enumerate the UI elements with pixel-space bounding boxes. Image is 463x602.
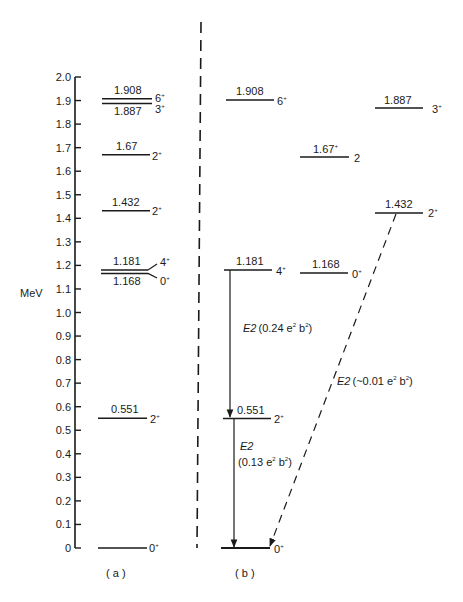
spin-label-a-1887: 3+ bbox=[155, 103, 165, 115]
panel-a: 1.908 1.887 6+ 3+ 1.67 2+ 1.432 2+ 1.181… bbox=[98, 84, 170, 579]
y-axis-unit-label: MeV bbox=[20, 287, 43, 299]
spin-label-a-167: 2+ bbox=[152, 150, 162, 162]
y-axis-tick-label: 0 bbox=[65, 542, 71, 554]
spin-label-b-1908: 6+ bbox=[277, 95, 287, 107]
panel-b-caption: ( b ) bbox=[235, 567, 255, 579]
y-axis-tick-label: 1.2 bbox=[56, 259, 71, 271]
transition-label-1181-to-0551: E2(0.24 e2 b2) bbox=[243, 322, 312, 334]
energy-label-a-1181: 1.181 bbox=[113, 255, 141, 267]
y-axis-tick-label: 0.4 bbox=[56, 448, 71, 460]
spin-label-b-1887: 3+ bbox=[432, 103, 442, 115]
spin-label-b-ground: 0+ bbox=[274, 543, 284, 555]
energy-label-a-167: 1.67 bbox=[116, 140, 137, 152]
y-axis-tick-label: 0.5 bbox=[56, 424, 71, 436]
spin-label-b-167: 2 bbox=[354, 152, 360, 164]
spin-label-a-1181: 4+ bbox=[160, 256, 170, 268]
spin-label-a-0551: 2+ bbox=[150, 413, 160, 425]
y-axis-tick-label: 0.9 bbox=[56, 330, 71, 342]
spin-label-b-1181: 4+ bbox=[276, 265, 286, 277]
y-axis-tick-label: 1.8 bbox=[56, 118, 71, 130]
energy-label-b-167: 1.67+ bbox=[313, 143, 338, 155]
panel-separator bbox=[197, 22, 201, 548]
spin-label-b-1168: 0+ bbox=[352, 268, 362, 280]
y-axis-tick-label: 1.0 bbox=[56, 307, 71, 319]
y-axis-tick-label: 0.3 bbox=[56, 471, 71, 483]
energy-label-b-1181: 1.181 bbox=[236, 255, 264, 267]
y-axis-ticks: 00.10.20.30.40.50.60.70.80.91.01.11.21.3… bbox=[56, 71, 81, 554]
y-axis-tick-label: 2.0 bbox=[56, 71, 71, 83]
energy-label-b-1887: 1.887 bbox=[384, 94, 412, 106]
spin-label-b-1432: 2+ bbox=[428, 207, 438, 219]
y-axis-tick-label: 0.1 bbox=[56, 518, 71, 530]
connector-a-1181 bbox=[148, 264, 157, 270]
y-axis-tick-label: 1.6 bbox=[56, 165, 71, 177]
y-axis-tick-label: 1.1 bbox=[56, 283, 71, 295]
panel-a-caption: ( a ) bbox=[106, 567, 126, 579]
energy-label-b-0551: 0.551 bbox=[237, 404, 265, 416]
panel-b: 1.908 6+ 1.887 3+ 1.67+ 2 1.432 2+ 1.181… bbox=[221, 85, 442, 579]
connector-a-1168 bbox=[148, 273, 157, 278]
y-axis-tick-label: 0.8 bbox=[56, 354, 71, 366]
y-axis-tick-label: 0.7 bbox=[56, 377, 71, 389]
y-axis-tick-label: 1.5 bbox=[56, 189, 71, 201]
energy-label-a-1908: 1.908 bbox=[114, 84, 142, 96]
energy-label-b-1908: 1.908 bbox=[236, 85, 264, 97]
y-axis-tick-label: 0.2 bbox=[56, 495, 71, 507]
spin-label-b-0551: 2+ bbox=[274, 413, 284, 425]
y-axis-tick-label: 1.9 bbox=[56, 95, 71, 107]
spin-label-a-1168: 0+ bbox=[160, 275, 170, 287]
y-axis-tick-label: 0.6 bbox=[56, 401, 71, 413]
y-axis-tick-label: 1.4 bbox=[56, 212, 71, 224]
spin-label-a-ground: 0+ bbox=[149, 542, 159, 554]
y-axis-tick-label: 1.7 bbox=[56, 142, 71, 154]
energy-label-a-1432: 1.432 bbox=[112, 196, 140, 208]
energy-label-a-1168: 1.168 bbox=[113, 275, 141, 287]
energy-label-b-1432: 1.432 bbox=[385, 198, 413, 210]
transition-label-1432-to-ground: E2(~0.01 e2 b2) bbox=[337, 375, 413, 387]
energy-label-a-1887: 1.887 bbox=[114, 105, 142, 117]
y-axis: 00.10.20.30.40.50.60.70.80.91.01.11.21.3… bbox=[20, 71, 81, 554]
energy-label-a-0551: 0.551 bbox=[111, 403, 139, 415]
spin-label-a-1432: 2+ bbox=[152, 205, 162, 217]
level-scheme-diagram: 00.10.20.30.40.50.60.70.80.91.01.11.21.3… bbox=[0, 0, 463, 602]
transition-type-0551-to-ground: E2 bbox=[240, 440, 253, 452]
transition-strength-0551-to-ground: (0.13 e2 b2) bbox=[238, 456, 292, 468]
energy-label-b-1168: 1.168 bbox=[312, 258, 340, 270]
y-axis-tick-label: 1.3 bbox=[56, 236, 71, 248]
